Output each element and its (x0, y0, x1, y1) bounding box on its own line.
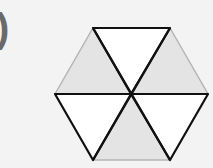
hexagon-figure (0, 0, 213, 168)
